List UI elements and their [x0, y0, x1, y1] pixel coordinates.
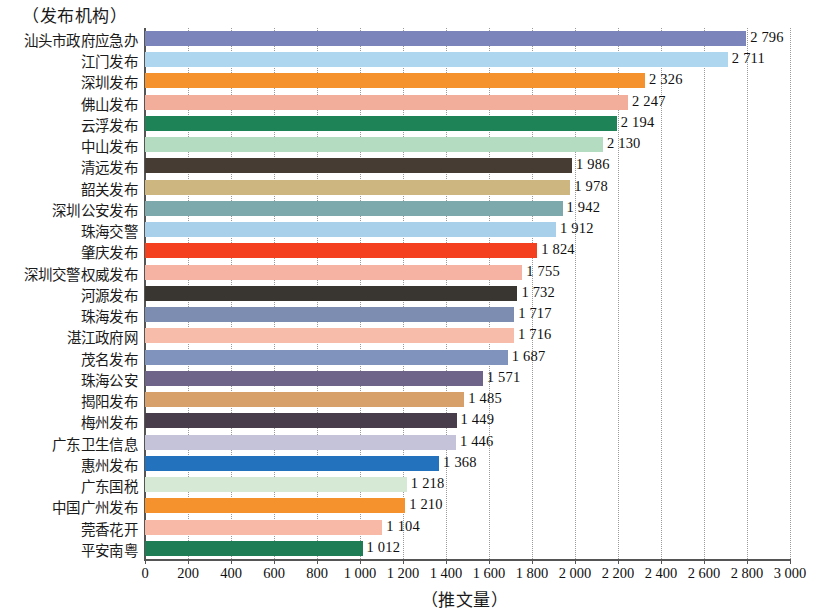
- x-tick: [188, 559, 189, 564]
- bar-row: 清远发布1 986: [145, 155, 790, 176]
- x-tick: [360, 559, 361, 564]
- bar-value-label: 2 796: [750, 29, 784, 46]
- bar-row: 深圳公安发布1 942: [145, 198, 790, 219]
- category-label: 平安南粤: [81, 539, 138, 560]
- bar-row: 中国广州发布1 210: [145, 495, 790, 516]
- bar[interactable]: [145, 541, 363, 556]
- bar[interactable]: [145, 52, 728, 67]
- bar-value-label: 1 978: [574, 178, 608, 195]
- x-tick-label: 2 400: [645, 565, 678, 582]
- bar[interactable]: [145, 116, 617, 131]
- category-label: 湛江政府网: [67, 326, 139, 347]
- bar-value-label: 1 755: [526, 263, 560, 280]
- bar[interactable]: [145, 477, 407, 492]
- bar-value-label: 1 986: [576, 156, 610, 173]
- bar-row: 深圳交警权威发布1 755: [145, 262, 790, 283]
- bar[interactable]: [145, 201, 563, 216]
- x-tick-label: 600: [263, 565, 285, 582]
- bar[interactable]: [145, 286, 517, 301]
- bar[interactable]: [145, 371, 483, 386]
- x-tick: [489, 559, 490, 564]
- y-axis-title: （发布机构）: [22, 2, 127, 27]
- bar[interactable]: [145, 243, 537, 258]
- bar-row: 珠海公安1 571: [145, 368, 790, 389]
- x-tick: [661, 559, 662, 564]
- x-tick: [532, 559, 533, 564]
- bar[interactable]: [145, 498, 405, 513]
- x-tick: [747, 559, 748, 564]
- category-label: 梅州发布: [81, 411, 138, 432]
- bar-value-label: 2 247: [632, 93, 666, 110]
- x-tick-label: 1 600: [473, 565, 506, 582]
- x-tick-label: 2 800: [731, 565, 764, 582]
- bar-row: 深圳发布2 326: [145, 70, 790, 91]
- bar-row: 湛江政府网1 716: [145, 325, 790, 346]
- bar-value-label: 1 449: [461, 411, 495, 428]
- bar-value-label: 1 368: [443, 454, 477, 471]
- bar-row: 广东国税1 218: [145, 474, 790, 495]
- bar[interactable]: [145, 350, 508, 365]
- bar[interactable]: [145, 137, 603, 152]
- category-label: 深圳交警权威发布: [24, 263, 138, 284]
- bar-row: 揭阳发布1 485: [145, 389, 790, 410]
- bar[interactable]: [145, 435, 456, 450]
- bar-row: 汕头市政府应急办2 796: [145, 28, 790, 49]
- bar[interactable]: [145, 307, 514, 322]
- bar[interactable]: [145, 158, 572, 173]
- x-tick-label: 2 000: [559, 565, 592, 582]
- bar-row: 云浮发布2 194: [145, 113, 790, 134]
- x-tick-label: 1 000: [344, 565, 377, 582]
- plot-area: 汕头市政府应急办2 796江门发布2 711深圳发布2 326佛山发布2 247…: [145, 28, 790, 559]
- bar-rows: 汕头市政府应急办2 796江门发布2 711深圳发布2 326佛山发布2 247…: [145, 28, 790, 559]
- bar-value-label: 2 130: [607, 135, 641, 152]
- category-label: 广东卫生信息: [52, 433, 138, 454]
- x-tick: [618, 559, 619, 564]
- bar[interactable]: [145, 95, 628, 110]
- bar[interactable]: [145, 413, 457, 428]
- category-label: 中山发布: [81, 135, 138, 156]
- bar[interactable]: [145, 31, 746, 46]
- bar[interactable]: [145, 265, 522, 280]
- x-tick-label: 3 000: [774, 565, 807, 582]
- category-label: 云浮发布: [81, 114, 138, 135]
- category-label: 珠海发布: [81, 305, 138, 326]
- category-label: 清远发布: [81, 156, 138, 177]
- bar-value-label: 1 942: [567, 199, 601, 216]
- bar-value-label: 1 717: [518, 305, 552, 322]
- bar-row: 珠海发布1 717: [145, 304, 790, 325]
- category-label: 珠海交警: [81, 220, 138, 241]
- bar-row: 茂名发布1 687: [145, 347, 790, 368]
- bar-row: 韶关发布1 978: [145, 177, 790, 198]
- x-tick: [145, 559, 146, 564]
- bar-value-label: 2 326: [649, 71, 683, 88]
- bar-value-label: 2 194: [621, 114, 655, 131]
- bar-row: 广东卫生信息1 446: [145, 432, 790, 453]
- x-tick: [790, 559, 791, 564]
- bar-value-label: 1 446: [460, 433, 494, 450]
- category-label: 肇庆发布: [81, 241, 138, 262]
- x-tick-label: 1 800: [516, 565, 549, 582]
- bar-value-label: 1 218: [411, 475, 445, 492]
- category-label: 中国广州发布: [52, 496, 138, 517]
- bar[interactable]: [145, 180, 570, 195]
- category-label: 河源发布: [81, 284, 138, 305]
- x-tick: [274, 559, 275, 564]
- category-label: 莞香花开: [81, 518, 138, 539]
- bar-value-label: 1 687: [512, 348, 546, 365]
- category-label: 广东国税: [81, 475, 138, 496]
- x-tick-label: 2 200: [602, 565, 635, 582]
- category-label: 揭阳发布: [81, 390, 138, 411]
- bar-row: 佛山发布2 247: [145, 92, 790, 113]
- category-label: 茂名发布: [81, 348, 138, 369]
- bar-row: 莞香花开1 104: [145, 517, 790, 538]
- bar[interactable]: [145, 328, 514, 343]
- bar[interactable]: [145, 73, 645, 88]
- bar-row: 河源发布1 732: [145, 283, 790, 304]
- category-label: 珠海公安: [81, 369, 138, 390]
- bar[interactable]: [145, 520, 382, 535]
- bar[interactable]: [145, 456, 439, 471]
- category-label: 深圳公安发布: [52, 199, 138, 220]
- bar[interactable]: [145, 222, 556, 237]
- bar-row: 珠海交警1 912: [145, 219, 790, 240]
- bar[interactable]: [145, 392, 464, 407]
